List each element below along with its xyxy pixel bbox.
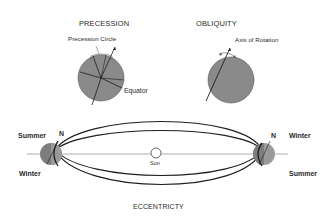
axis-of-rotation-label: Axis of Rotation <box>235 37 278 43</box>
left-winter-label: Winter <box>19 170 41 177</box>
equator-label: Equator <box>124 88 148 95</box>
sun-label: Sun <box>150 161 160 167</box>
sun-icon <box>151 148 161 158</box>
left-north-label: N <box>59 130 64 137</box>
obliquity-globe <box>206 48 254 103</box>
right-winter-label: Winter <box>289 132 311 139</box>
left-summer-label: Summer <box>18 132 46 139</box>
right-summer-label: Summer <box>289 170 317 177</box>
precession-title: PRECESSION <box>79 20 129 28</box>
precession-circle-label: Precession Circle <box>68 36 116 42</box>
precession-globe <box>78 46 124 105</box>
right-north-label: N <box>271 132 276 139</box>
eccentricity-title: ECCENTRICTY <box>133 203 184 210</box>
milankovitch-diagram <box>0 0 333 222</box>
earth-left <box>40 141 62 166</box>
obliquity-title: OBLIQUITY <box>196 20 237 28</box>
